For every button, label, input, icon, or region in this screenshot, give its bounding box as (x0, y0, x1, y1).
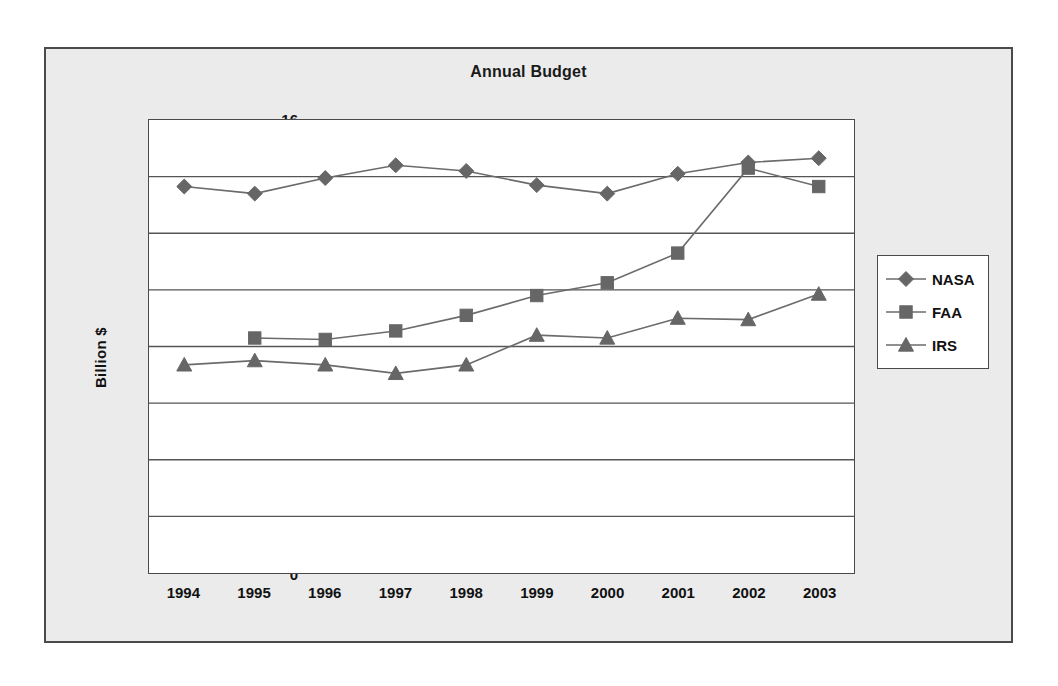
legend-square-icon (884, 302, 928, 322)
data-point-irs-1998 (459, 357, 474, 371)
plot-area (148, 119, 855, 574)
x-axis-tick-2002: 2002 (714, 584, 784, 601)
x-axis-tick-1996: 1996 (290, 584, 360, 601)
legend-label-irs: IRS (932, 337, 957, 354)
x-axis-tick-1999: 1999 (502, 584, 572, 601)
legend-entry-nasa[interactable]: NASA (878, 264, 988, 294)
chart-legend: NASAFAAIRS (877, 255, 989, 369)
x-axis-tick-1998: 1998 (431, 584, 501, 601)
data-point-faa-2003 (813, 180, 825, 192)
x-axis-tick-2003: 2003 (785, 584, 855, 601)
series-line-nasa (184, 158, 819, 193)
data-point-faa-1997 (390, 325, 402, 337)
legend-entry-irs[interactable]: IRS (878, 330, 988, 360)
data-point-faa-2002 (742, 162, 754, 174)
x-axis-tick-1994: 1994 (148, 584, 218, 601)
data-point-nasa-1995 (247, 186, 262, 201)
x-axis-tick-1997: 1997 (360, 584, 430, 601)
data-point-irs-2003 (811, 287, 826, 301)
data-point-faa-1995 (249, 332, 261, 344)
y-axis-label: Billion $ (92, 298, 109, 418)
data-point-faa-2000 (601, 277, 613, 289)
data-point-nasa-1996 (318, 171, 333, 186)
x-axis-tick-2000: 2000 (573, 584, 643, 601)
legend-entry-faa[interactable]: FAA (878, 297, 988, 327)
data-point-nasa-2001 (670, 166, 685, 181)
data-point-irs-1995 (247, 353, 262, 367)
data-point-faa-1996 (319, 333, 331, 345)
data-point-faa-1998 (460, 309, 472, 321)
legend-triangle-icon (884, 335, 928, 355)
data-point-faa-2001 (672, 247, 684, 259)
data-point-nasa-2003 (811, 151, 826, 166)
data-point-nasa-1994 (177, 179, 192, 194)
series-line-faa (255, 168, 819, 339)
legend-label-faa: FAA (932, 304, 962, 321)
legend-diamond-icon (884, 269, 928, 289)
legend-label-nasa: NASA (932, 271, 975, 288)
data-point-irs-1999 (529, 328, 544, 342)
x-axis-tick-2001: 2001 (643, 584, 713, 601)
data-point-nasa-1999 (529, 178, 544, 193)
data-point-faa-1999 (531, 289, 543, 301)
data-point-nasa-1997 (388, 158, 403, 173)
chart-title: Annual Budget (46, 63, 1011, 81)
x-axis-tick-1995: 1995 (219, 584, 289, 601)
plot-svg (149, 120, 854, 573)
chart-figure: Annual Budget Billion $ 0246810121416 19… (44, 47, 1013, 643)
data-point-nasa-2000 (600, 186, 615, 201)
